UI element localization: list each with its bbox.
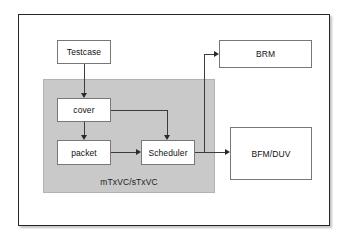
edge-testcase-cover-line xyxy=(84,64,85,93)
node-bfm-duv-label: BFM/DUV xyxy=(252,149,291,159)
node-testcase[interactable]: Testcase xyxy=(57,40,111,64)
node-cover-label: cover xyxy=(73,105,94,115)
node-packet-label: packet xyxy=(71,148,97,158)
node-cover[interactable]: cover xyxy=(57,98,111,122)
node-bfm-duv[interactable]: BFM/DUV xyxy=(230,127,312,180)
node-brm[interactable]: BRM xyxy=(219,40,312,68)
node-packet[interactable]: packet xyxy=(57,140,111,165)
diagram-canvas: mTxVC/sTxVC Testcase cover packet Schedu… xyxy=(0,0,348,240)
panel-label: mTxVC/sTxVC xyxy=(44,177,214,187)
node-scheduler[interactable]: Scheduler xyxy=(141,140,195,165)
edge-scheduler-brm-vertical xyxy=(204,54,205,152)
edge-cover-scheduler-vertical xyxy=(167,110,168,135)
node-scheduler-label: Scheduler xyxy=(148,148,187,158)
edge-scheduler-bfmduv-line xyxy=(195,152,225,153)
edge-packet-scheduler-line xyxy=(111,152,136,153)
node-testcase-label: Testcase xyxy=(67,47,101,57)
node-brm-label: BRM xyxy=(256,49,275,59)
edge-cover-scheduler-horizontal xyxy=(111,110,168,111)
mtxvc-stxvc-panel: mTxVC/sTxVC xyxy=(43,79,215,193)
edge-cover-packet-line xyxy=(84,122,85,135)
